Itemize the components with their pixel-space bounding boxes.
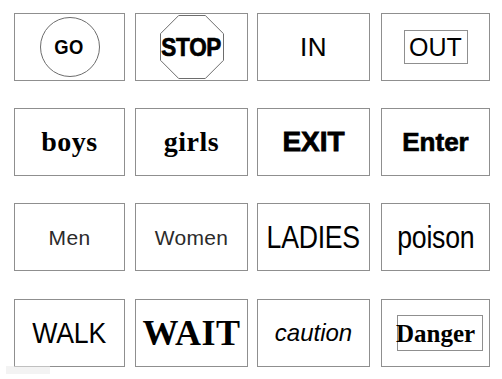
sign-row: Men Women LADIES poison <box>0 203 502 273</box>
sign-card-ladies[interactable]: LADIES <box>257 203 370 271</box>
sign-card-label: caution <box>275 321 352 345</box>
sign-card-men[interactable]: Men <box>14 203 125 271</box>
sign-card-wait[interactable]: WAIT <box>135 299 248 367</box>
sign-card-enter[interactable]: Enter <box>381 108 490 176</box>
sign-card-danger[interactable]: Danger <box>381 299 490 367</box>
sign-card-label: WALK <box>33 319 107 348</box>
sign-card-label: GO <box>55 37 85 57</box>
sign-card-poison[interactable]: poison <box>381 203 490 271</box>
sign-card-label: poison <box>397 222 474 253</box>
sign-card-label: EXIT <box>282 128 344 156</box>
sign-card-women[interactable]: Women <box>135 203 248 271</box>
sign-card-label: LADIES <box>267 222 360 253</box>
sign-card-label: Enter <box>402 129 468 155</box>
sign-card-label: boys <box>41 128 97 156</box>
sign-card-in[interactable]: IN <box>257 13 370 81</box>
sign-row: WALK WAIT caution Danger <box>0 299 502 369</box>
sign-card-boys[interactable]: boys <box>14 108 125 176</box>
sign-card-label: Men <box>49 227 91 248</box>
sign-card-girls[interactable]: girls <box>135 108 248 176</box>
sign-card-out[interactable]: OUT <box>381 13 490 81</box>
sign-row: GO STOP IN OUT <box>0 13 502 83</box>
sign-card-exit[interactable]: EXIT <box>257 108 370 176</box>
sign-card-label: OUT <box>409 35 462 60</box>
sign-card-label: WAIT <box>142 315 240 351</box>
sign-card-label: girls <box>164 128 219 156</box>
sign-card-grid: GO STOP IN OUT boys girls EXIT <box>0 0 502 379</box>
sign-card-stop[interactable]: STOP <box>135 13 248 81</box>
sign-card-label: Women <box>155 227 228 248</box>
sign-row: boys girls EXIT Enter <box>0 108 502 178</box>
sign-card-label: Danger <box>396 321 475 346</box>
scan-artifact <box>6 366 50 374</box>
sign-card-label: IN <box>300 34 327 60</box>
sign-card-label: STOP <box>162 35 222 60</box>
sign-card-walk[interactable]: WALK <box>14 299 125 367</box>
sign-card-go[interactable]: GO <box>14 13 125 81</box>
sign-card-caution[interactable]: caution <box>257 299 370 367</box>
